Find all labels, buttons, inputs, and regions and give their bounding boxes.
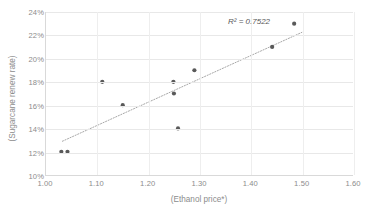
- data-point[interactable]: [172, 91, 176, 95]
- x-axis-tick-label: 1.10: [76, 179, 116, 188]
- y-axis-tick-label: 22%: [10, 31, 44, 40]
- y-axis-tick-label: 18%: [10, 78, 44, 87]
- gridline-vertical: [303, 12, 304, 175]
- r-squared-annotation: R² = 0.7522: [228, 17, 270, 26]
- y-axis-tick-label: 24%: [10, 8, 44, 17]
- y-axis-tick-label: 20%: [10, 54, 44, 63]
- gridline-vertical: [97, 12, 98, 175]
- y-axis-tick-label: 12%: [10, 148, 44, 157]
- scatter-chart: R² = 0.7522 (Ethanol price*) (Sugarcane …: [0, 0, 375, 214]
- x-axis-tick-label: 1.00: [25, 179, 65, 188]
- x-axis-tick-label: 1.30: [179, 179, 219, 188]
- x-axis-tick-label: 1.20: [128, 179, 168, 188]
- x-axis-title: (Ethanol price*): [45, 195, 353, 204]
- gridline-vertical: [354, 12, 355, 175]
- data-point[interactable]: [270, 45, 274, 49]
- x-axis-tick-label: 1.60: [333, 179, 373, 188]
- data-point[interactable]: [292, 22, 296, 26]
- y-axis-tick-label: 16%: [10, 101, 44, 110]
- data-point[interactable]: [192, 68, 196, 72]
- x-axis-tick-label: 1.50: [282, 179, 322, 188]
- plot-area: [45, 12, 353, 176]
- x-axis-tick-label: 1.40: [230, 179, 270, 188]
- gridline-vertical: [149, 12, 150, 175]
- gridline-vertical: [200, 12, 201, 175]
- y-axis-tick-label: 14%: [10, 125, 44, 134]
- gridline-vertical: [251, 12, 252, 175]
